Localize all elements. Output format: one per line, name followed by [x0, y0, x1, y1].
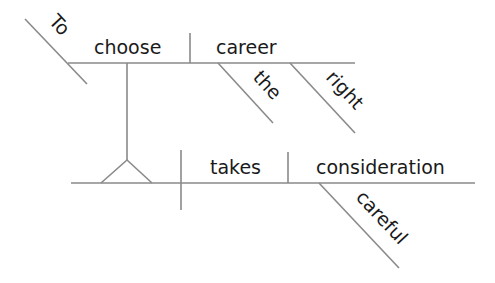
word-the: the — [249, 66, 286, 104]
word-choose: choose — [94, 36, 161, 58]
word-to: To — [44, 9, 74, 39]
pedestal-base — [101, 160, 152, 183]
sentence-diagram: To choose career the right takes conside… — [0, 0, 495, 283]
word-takes: takes — [210, 156, 261, 178]
word-careful: careful — [352, 186, 413, 249]
word-right: right — [322, 66, 369, 114]
word-consideration: consideration — [316, 156, 445, 178]
word-career: career — [216, 36, 277, 58]
